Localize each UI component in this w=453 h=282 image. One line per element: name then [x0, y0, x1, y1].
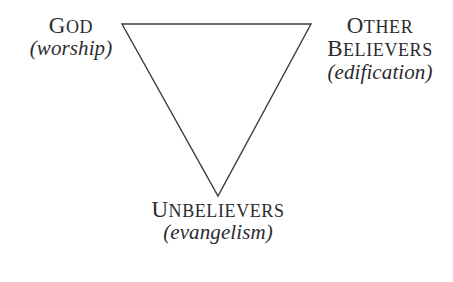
vertex-label-other-believers: OTHER BELIEVERS (edification) [314, 14, 446, 83]
vertex-parenthetical-edification: (edification) [314, 62, 446, 83]
vertex-title-believers: BELIEVERS [314, 37, 446, 60]
vertex-title-god-rest: OD [66, 17, 93, 37]
vertex-title-other: OTHER [314, 14, 446, 37]
diagram-canvas: GOD (worship) OTHER BELIEVERS (edificati… [0, 0, 453, 282]
vertex-label-god: GOD (worship) [18, 14, 124, 60]
vertex-title-unbelievers-rest: NBELIEVERS [169, 201, 285, 221]
vertex-parenthetical-evangelism: (evangelism) [124, 222, 312, 243]
vertex-title-other-initial: O [347, 13, 364, 38]
vertex-title-believers-initial: B [327, 36, 343, 61]
vertex-title-god: GOD [18, 14, 124, 37]
vertex-label-unbelievers: UNBELIEVERS (evangelism) [124, 198, 312, 244]
vertex-title-believers-rest: ELIEVERS [343, 40, 433, 60]
vertex-parenthetical-worship: (worship) [18, 38, 124, 59]
vertex-title-unbelievers-initial: U [151, 197, 168, 222]
triangle-outline [122, 24, 311, 196]
vertex-title-other-rest: THER [364, 17, 413, 37]
vertex-title-unbelievers: UNBELIEVERS [124, 198, 312, 221]
vertex-title-god-initial: G [49, 13, 66, 38]
